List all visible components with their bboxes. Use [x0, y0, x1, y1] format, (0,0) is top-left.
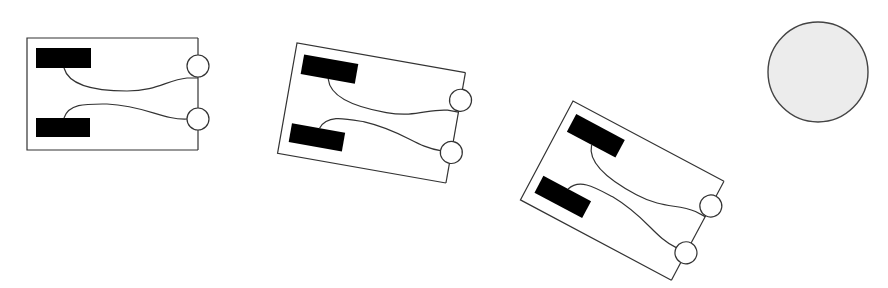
card-2 — [278, 43, 477, 185]
card-shape — [520, 101, 733, 285]
card-3 — [520, 101, 733, 285]
gray-disc — [768, 22, 868, 122]
card-shape — [27, 38, 209, 150]
diagram-canvas — [0, 0, 888, 288]
card-shape — [278, 43, 477, 185]
card-1 — [27, 38, 209, 150]
